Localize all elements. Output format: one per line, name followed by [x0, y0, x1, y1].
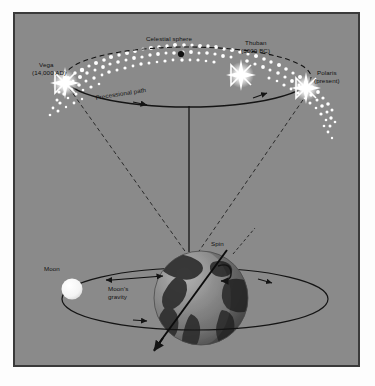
earth [154, 251, 258, 353]
label-spin: Spin [211, 240, 224, 247]
celestial-sphere-dot [178, 51, 184, 57]
moon-orbit-arrow-back [258, 279, 272, 283]
diagram-panel: Celestial sphere Vega (14,000 AD) Thuban… [13, 12, 360, 367]
label-moon: Moon [44, 265, 60, 272]
sight-line-polaris [197, 94, 307, 254]
moon-orbit-arrow-front [133, 320, 147, 321]
precession-direction-arrow-back [253, 93, 267, 98]
label-moons-gravity-line1: Moon's [108, 285, 128, 292]
spin-leader-line [233, 228, 255, 254]
label-thuban-name: Thuban [245, 39, 267, 46]
star-thuban [226, 59, 256, 91]
celestial-sphere-star-band [49, 43, 337, 139]
sight-line-vega [69, 88, 187, 254]
moons-gravity-arrow [112, 276, 163, 280]
label-moons-gravity-line2: gravity [108, 293, 127, 300]
moon [62, 279, 83, 300]
precession-ellipse-back-dashed [65, 47, 311, 77]
label-polaris-name: Polaris [317, 69, 337, 76]
precession-diagram-svg [15, 14, 358, 365]
label-polaris-date: (present) [314, 77, 340, 84]
label-thuban-date: (3000 BC) [241, 47, 270, 54]
label-celestial-sphere: Celestial sphere [146, 35, 192, 42]
diagram-stage: Celestial sphere Vega (14,000 AD) Thuban… [0, 0, 375, 386]
label-vega-date: (14,000 AD) [32, 69, 66, 76]
earth-axis-arrow [154, 338, 163, 351]
label-vega-name: Vega [39, 61, 54, 68]
